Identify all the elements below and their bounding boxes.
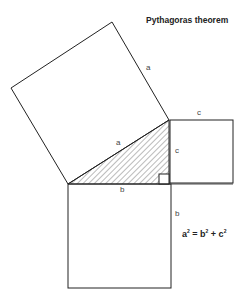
label-c-top: c: [197, 108, 201, 117]
label-b-leg: b: [120, 185, 124, 194]
pythagoras-formula: a2 = b2 + c2: [182, 228, 226, 239]
label-a-square: a: [146, 63, 150, 72]
label-a-hypotenuse: a: [116, 138, 120, 147]
label-b-side: b: [175, 209, 179, 218]
square-b: [68, 184, 171, 288]
pythagoras-diagram: [0, 0, 247, 304]
diagram-title: Pythagoras theorem: [146, 15, 228, 25]
label-c-leg: c: [175, 146, 179, 155]
square-c: [170, 120, 233, 183]
right-triangle: [68, 120, 169, 184]
right-angle-marker: [159, 174, 169, 184]
